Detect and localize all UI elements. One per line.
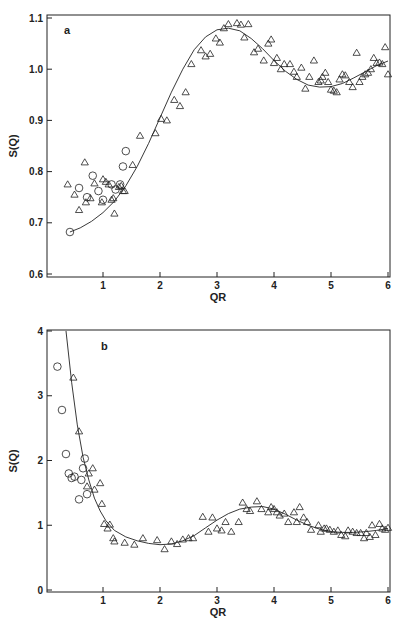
data-point-triangle — [315, 522, 322, 528]
data-point-triangle — [246, 507, 253, 513]
data-point-triangle — [209, 514, 216, 520]
data-point-circle — [75, 496, 83, 504]
data-point-triangle — [253, 498, 260, 504]
data-point-circle — [62, 450, 70, 458]
chart-b: b QR S(Q) 12345601234 — [0, 0, 406, 632]
fit-curve — [66, 331, 388, 545]
x-tick-label: 2 — [157, 595, 163, 606]
x-tick-label: 6 — [385, 595, 391, 606]
data-point-triangle — [97, 480, 104, 486]
data-point-triangle — [296, 504, 303, 510]
data-point-triangle — [98, 500, 105, 506]
y-axis-label-b: S(Q) — [7, 449, 19, 473]
data-point-triangle — [89, 465, 96, 471]
data-point-triangle — [154, 537, 161, 543]
data-point-triangle — [222, 518, 229, 524]
data-point-triangle — [368, 522, 375, 528]
data-point-circle — [78, 476, 86, 484]
data-point-circle — [81, 455, 89, 463]
x-tick-label: 5 — [328, 595, 334, 606]
x-axis-label-b: QR — [210, 606, 227, 618]
data-point-triangle — [205, 528, 212, 534]
x-tick-label: 1 — [100, 595, 106, 606]
plot-frame-b — [47, 330, 390, 592]
data-point-triangle — [285, 518, 292, 524]
data-point-triangle — [372, 531, 379, 537]
data-point-triangle — [199, 513, 206, 519]
y-tick-label: 1 — [37, 520, 43, 531]
y-tick-label: 2 — [37, 455, 43, 466]
data-point-circle — [83, 490, 91, 498]
y-tick-label: 0 — [37, 585, 43, 596]
data-point-triangle — [139, 535, 146, 541]
y-tick-label: 3 — [37, 390, 43, 401]
data-point-circle — [71, 473, 79, 481]
data-point-triangle — [161, 546, 168, 552]
data-point-triangle — [235, 518, 242, 524]
x-tick-label: 3 — [214, 595, 220, 606]
data-point-circle — [54, 363, 62, 371]
panel-label-b: b — [101, 340, 108, 352]
data-point-triangle — [121, 539, 128, 545]
data-point-triangle — [131, 541, 138, 547]
data-point-triangle — [239, 499, 246, 505]
y-tick-label: 4 — [37, 326, 43, 337]
x-tick-label: 4 — [271, 595, 277, 606]
data-point-triangle — [228, 528, 235, 534]
data-point-circle — [58, 406, 66, 414]
data-point-triangle — [300, 514, 307, 520]
